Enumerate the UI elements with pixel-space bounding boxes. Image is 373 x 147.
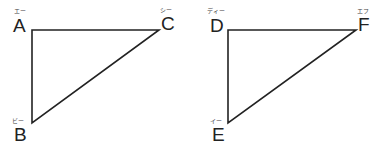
vertex-c-label: C bbox=[161, 14, 175, 33]
vertex-e-label: E bbox=[212, 125, 225, 144]
triangle-abc bbox=[32, 30, 159, 123]
vertex-a-label: A bbox=[13, 16, 26, 35]
vertex-f-label: F bbox=[358, 15, 370, 34]
vertex-b-label: B bbox=[14, 125, 27, 144]
vertex-a-reading: エー bbox=[14, 8, 26, 14]
vertex-d-label: D bbox=[210, 16, 224, 35]
triangle-def bbox=[228, 30, 356, 123]
triangles-figure bbox=[0, 0, 373, 147]
vertex-d-reading: ディー bbox=[207, 8, 225, 14]
